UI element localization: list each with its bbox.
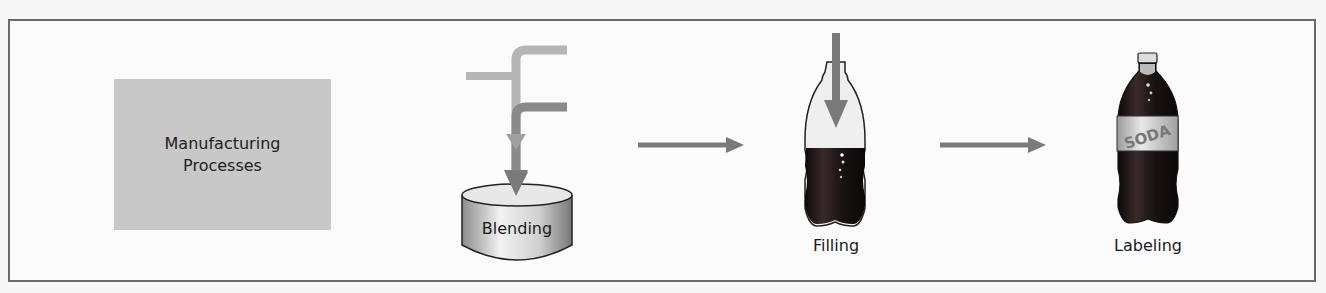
flow-arrow-icon (940, 137, 1046, 153)
step-label-labeling: Labeling (1108, 236, 1188, 255)
bottle-being-filled-icon (805, 33, 865, 226)
flow-arrow-icon (638, 137, 744, 153)
step-label-blending: Blending (462, 219, 572, 238)
step-label-filling: Filling (796, 236, 876, 255)
mixing-tank-icon (462, 172, 572, 260)
labeled-soda-bottle-icon: SODA (1117, 53, 1178, 223)
